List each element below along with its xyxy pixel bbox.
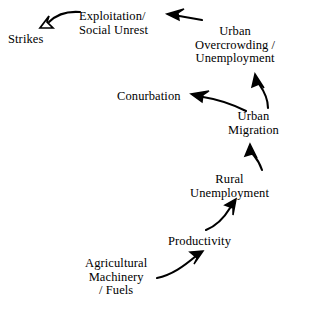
node-strikes: Strikes xyxy=(8,33,43,47)
node-urban-overcrowding-line-1: Urban xyxy=(195,25,275,39)
node-urban-overcrowding-line-3: Unemployment xyxy=(195,52,275,66)
node-exploitation-line-2: Social Unrest xyxy=(79,24,148,38)
node-agricultural-line-2: Machinery xyxy=(85,271,147,285)
node-urban-overcrowding-line-2: Overcrowding / xyxy=(195,39,275,53)
edge-productivity-to-rural-unemployment xyxy=(206,199,236,230)
edge-urban-overcrowding-to-exploitation xyxy=(167,9,202,20)
edge-exploitation-to-strikes xyxy=(40,12,80,28)
node-productivity-line-1: Productivity xyxy=(168,235,231,249)
node-urban-overcrowding-unemployment: Urban Overcrowding / Unemployment xyxy=(195,25,275,66)
node-strikes-line-1: Strikes xyxy=(8,33,43,47)
edge-rural-unemployment-to-urban-migration xyxy=(245,144,262,170)
node-urban-migration: Urban Migration xyxy=(228,110,279,137)
node-urban-migration-line-2: Migration xyxy=(228,124,279,138)
node-rural-unemployment-line-2: Unemployment xyxy=(190,187,269,201)
edge-urban-migration-to-conurbation xyxy=(191,91,246,111)
node-rural-unemployment: Rural Unemployment xyxy=(190,173,269,200)
node-urban-migration-line-1: Urban xyxy=(228,110,279,124)
node-agricultural-line-3: / Fuels xyxy=(85,284,147,298)
node-agricultural-line-1: Agricultural xyxy=(85,257,147,271)
edge-urban-migration-to-urban-overcrowding xyxy=(252,74,268,108)
edge-agricultural-to-productivity xyxy=(157,251,203,278)
node-conurbation-line-1: Conurbation xyxy=(117,90,181,104)
node-productivity: Productivity xyxy=(168,235,231,249)
node-exploitation-social-unrest: Exploitation/ Social Unrest xyxy=(79,10,148,37)
causal-flow-diagram: Strikes Exploitation/ Social Unrest Urba… xyxy=(0,0,310,314)
node-agricultural-machinery-fuels: Agricultural Machinery / Fuels xyxy=(85,257,147,298)
node-rural-unemployment-line-1: Rural xyxy=(190,173,269,187)
node-exploitation-line-1: Exploitation/ xyxy=(79,10,148,24)
node-conurbation: Conurbation xyxy=(117,90,181,104)
